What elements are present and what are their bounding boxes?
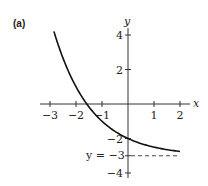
y-tick-label: 2 xyxy=(116,64,123,77)
chart: (a) x y −3−2−112 42−2−4 y = −3 xyxy=(0,0,208,186)
x-tick-label: 2 xyxy=(177,109,184,122)
y-tick-label: −4 xyxy=(107,167,123,180)
y-axis-label: y xyxy=(123,15,131,28)
y-tick-label: 4 xyxy=(116,29,123,42)
exponential-curve xyxy=(54,31,180,151)
x-tick-label: 1 xyxy=(151,109,158,122)
panel-label: (a) xyxy=(13,18,25,29)
x-axis-label: x xyxy=(193,97,200,110)
asymptote-label: y = −3 xyxy=(85,149,125,162)
x-tick-label: −2 xyxy=(68,109,84,122)
x-tick-label: −3 xyxy=(42,109,58,122)
